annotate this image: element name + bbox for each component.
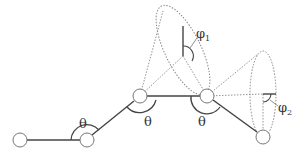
torsion-cone-2	[207, 51, 278, 137]
theta-label-3: θ	[198, 114, 206, 129]
atom-5	[256, 130, 270, 144]
torsion-cone-1	[140, 0, 221, 102]
atom-1	[13, 133, 27, 147]
atom-4	[200, 89, 214, 103]
theta-label-1: θ	[79, 116, 87, 131]
theta-label-2: θ	[144, 114, 152, 129]
phi2-label: φ2	[278, 100, 292, 117]
chain-diagram: θ θ θ φ1 φ2	[0, 0, 302, 157]
phi1-label: φ1	[196, 26, 210, 43]
atoms	[13, 89, 270, 147]
atom-3	[133, 89, 147, 103]
atom-2	[80, 133, 94, 147]
